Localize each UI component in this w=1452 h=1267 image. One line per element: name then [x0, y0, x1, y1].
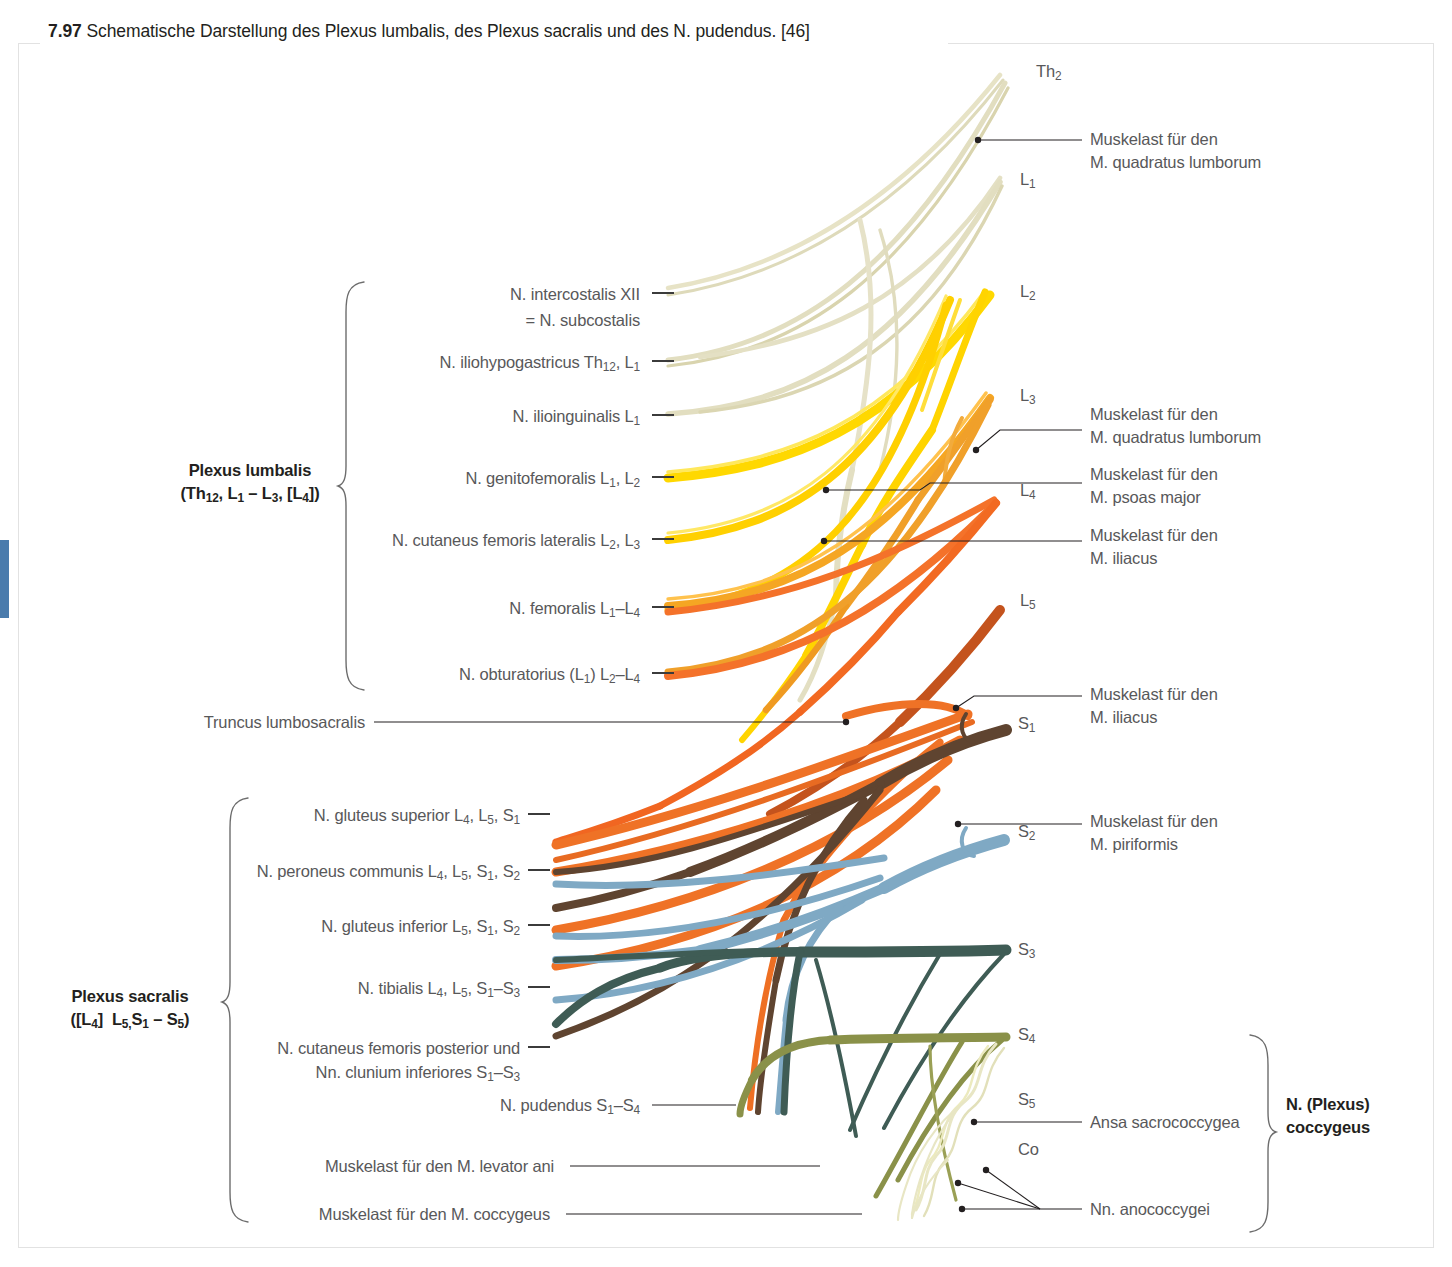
nerve-label-subcostalis: = N. subcostalis: [200, 310, 640, 331]
muscle-branch-iliacus-l4-line1: Muskelast für den: [1090, 525, 1218, 546]
label-truncus-lumbosacralis: Truncus lumbosacralis: [60, 712, 365, 733]
figure-caption-text: Schematische Darstellung des Plexus lumb…: [86, 21, 809, 41]
nerve-label-levator-ani: Muskelast für den M. levator ani: [160, 1156, 554, 1177]
root-label-s4: S4: [1018, 1024, 1035, 1045]
root-label-l1: L1: [1020, 169, 1036, 190]
nerve-label-coccygeus-branch: Muskelast für den M. coccygeus: [160, 1204, 550, 1225]
nerve-label-ansa-sacrococcygea: Ansa sacrococcygea: [1090, 1112, 1240, 1133]
muscle-branch-psoas-major-line2: M. psoas major: [1090, 487, 1201, 508]
muscle-branch-quadratus-lumborum-l3-line2: M. quadratus lumborum: [1090, 427, 1261, 448]
nerve-label-intercostalis-xii: N. intercostalis XII: [200, 284, 640, 305]
nerve-label-pudendus: N. pudendus S1–S4: [260, 1095, 640, 1116]
root-label-s5: S5: [1018, 1089, 1035, 1110]
dash-cutaneus-femoris-lateralis: [652, 538, 674, 540]
root-label-co: Co: [1018, 1139, 1039, 1160]
figure-caption: 7.97 Schematische Darstellung des Plexus…: [48, 21, 810, 42]
nerve-label-cutaneus-femoris-posterior: N. cutaneus femoris posterior und: [100, 1038, 520, 1059]
root-label-l5: L5: [1020, 590, 1036, 611]
muscle-branch-quadratus-lumborum-th12-line2: M. quadratus lumborum: [1090, 152, 1261, 173]
nerve-label-peroneus-communis: N. peroneus communis L4, L5, S1, S2: [100, 861, 520, 882]
dash-iliohypogastricus: [652, 360, 674, 362]
muscle-branch-quadratus-lumborum-l3-line1: Muskelast für den: [1090, 404, 1218, 425]
figure-page: 7.97 Schematische Darstellung des Plexus…: [0, 0, 1452, 1267]
plexus-coccygeus-title-line1: N. (Plexus): [1286, 1094, 1436, 1115]
dash-gluteus-inferior: [528, 924, 550, 926]
nerve-label-gluteus-superior: N. gluteus superior L4, L5, S1: [120, 805, 520, 826]
root-label-s1: S1: [1018, 713, 1035, 734]
dash-gluteus-superior: [528, 813, 550, 815]
root-label-l3: L3: [1020, 385, 1036, 406]
nerve-label-iliohypogastricus: N. iliohypogastricus Th12, L1: [200, 352, 640, 373]
muscle-branch-psoas-major-line1: Muskelast für den: [1090, 464, 1218, 485]
plexus-sacralis-roots: ([L4] L5,S1 – S5): [30, 1009, 230, 1030]
nerve-label-obturatorius: N. obturatorius (L1) L2–L4: [160, 664, 640, 685]
nerve-label-cutaneus-femoris-lateralis: N. cutaneus femoris lateralis L2, L3: [160, 530, 640, 551]
plexus-coccygeus-title-line2: coccygeus: [1286, 1117, 1436, 1138]
nerve-label-tibialis: N. tibialis L4, L5, S1–S3: [140, 978, 520, 999]
nerve-label-femoralis: N. femoralis L1–L4: [180, 598, 640, 619]
dash-intercostalis-xii: [652, 292, 674, 294]
dash-tibialis: [528, 986, 550, 988]
dash-femoralis: [652, 606, 674, 608]
nerve-label-gluteus-inferior: N. gluteus inferior L5, S1, S2: [120, 916, 520, 937]
dash-obturatorius: [652, 672, 674, 674]
muscle-branch-iliacus-s1-line2: M. iliacus: [1090, 707, 1157, 728]
root-label-l2: L2: [1020, 281, 1036, 302]
dash-ilioinguinalis: [652, 414, 674, 416]
dash-cutaneus-femoris-posterior: [528, 1046, 550, 1048]
nerve-label-ilioinguinalis: N. ilioinguinalis L1: [200, 406, 640, 427]
dash-genitofemoralis: [652, 476, 674, 478]
nerve-label-anococcygei: Nn. anococcygei: [1090, 1199, 1210, 1220]
page-edge-tab: [0, 540, 9, 618]
root-label-s2: S2: [1018, 821, 1035, 842]
nerve-label-genitofemoralis: N. genitofemoralis L1, L2: [180, 468, 640, 489]
muscle-branch-quadratus-lumborum-th12-line1: Muskelast für den: [1090, 129, 1218, 150]
root-label-l4: L4: [1020, 480, 1036, 501]
muscle-branch-iliacus-s1-line1: Muskelast für den: [1090, 684, 1218, 705]
muscle-branch-iliacus-l4-line2: M. iliacus: [1090, 548, 1157, 569]
figure-number: 7.97: [48, 21, 82, 41]
muscle-branch-piriformis-line2: M. piriformis: [1090, 834, 1178, 855]
muscle-branch-piriformis-line1: Muskelast für den: [1090, 811, 1218, 832]
nerve-label-clunium-inferiores: Nn. clunium inferiores S1–S3: [100, 1062, 520, 1083]
root-label-s3: S3: [1018, 939, 1035, 960]
dash-peroneus-communis: [528, 869, 550, 871]
root-label-th2: Th2: [1036, 61, 1061, 82]
